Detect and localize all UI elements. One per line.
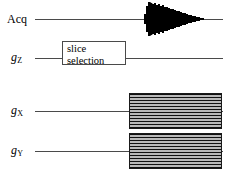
channel-label-acq-text: Acq [7, 12, 27, 26]
slice-selection-line-1: slice [67, 44, 125, 55]
gradient-block-gx [129, 93, 222, 129]
slice-selection-line-2: selection [67, 56, 125, 67]
gradient-block-gy [129, 133, 222, 169]
channel-label-gz-subscript: Z [17, 56, 22, 65]
channel-label-gz: gZ [11, 51, 22, 67]
channel-label-gy-subscript: Y [17, 149, 23, 158]
pulse-sequence-diagram: Acq [0, 0, 234, 174]
channel-label-acq: Acq [7, 13, 27, 25]
channel-label-gy: gY [11, 144, 23, 160]
free-induction-decay-signal [144, 1, 212, 37]
channel-label-gx: gX [11, 104, 23, 120]
channel-label-gx-subscript: X [17, 109, 23, 118]
slice-selection-box: slice selection [62, 41, 126, 65]
